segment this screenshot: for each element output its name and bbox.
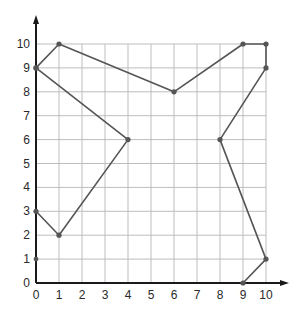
x-tick-label: 2 [79,288,86,302]
data-point [56,41,61,46]
y-tick-label: 0 [23,276,30,290]
x-tick-label: 1 [56,288,63,302]
data-point [33,65,38,70]
data-point [33,209,38,214]
y-tick-label: 9 [23,61,30,75]
data-point [263,257,268,262]
y-tick-label: 7 [23,109,30,123]
data-point [240,41,245,46]
y-tick-labels: 012345678910 [17,37,31,290]
y-tick-label: 6 [23,133,30,147]
x-tick-label: 6 [171,288,178,302]
y-tick-label: 5 [23,157,30,171]
y-tick-label: 2 [23,228,30,242]
x-tick-label: 0 [33,288,40,302]
x-tick-labels: 012345678910 [33,288,273,302]
y-tick-label: 3 [23,204,30,218]
y-tick-label: 10 [17,37,31,51]
isolated-point [34,257,39,262]
data-point [125,137,130,142]
x-tick-label: 7 [194,288,201,302]
coordinate-grid-chart: 012345678910 012345678910 [0,0,304,313]
x-tick-label: 9 [240,288,247,302]
x-tick-label: 3 [102,288,109,302]
x-tick-label: 4 [125,288,132,302]
y-tick-label: 1 [23,252,30,266]
x-axis-arrow-icon [280,280,289,286]
data-point [240,280,245,285]
y-tick-label: 4 [23,180,30,194]
y-tick-label: 8 [23,85,30,99]
data-point [217,137,222,142]
axes [33,15,289,286]
data-point [263,65,268,70]
data-point [171,89,176,94]
y-axis-arrow-icon [33,15,39,24]
x-tick-label: 8 [217,288,224,302]
data-point [263,41,268,46]
x-tick-label: 10 [259,288,273,302]
x-tick-label: 5 [148,288,155,302]
data-point [56,233,61,238]
grid-lines [36,44,266,283]
